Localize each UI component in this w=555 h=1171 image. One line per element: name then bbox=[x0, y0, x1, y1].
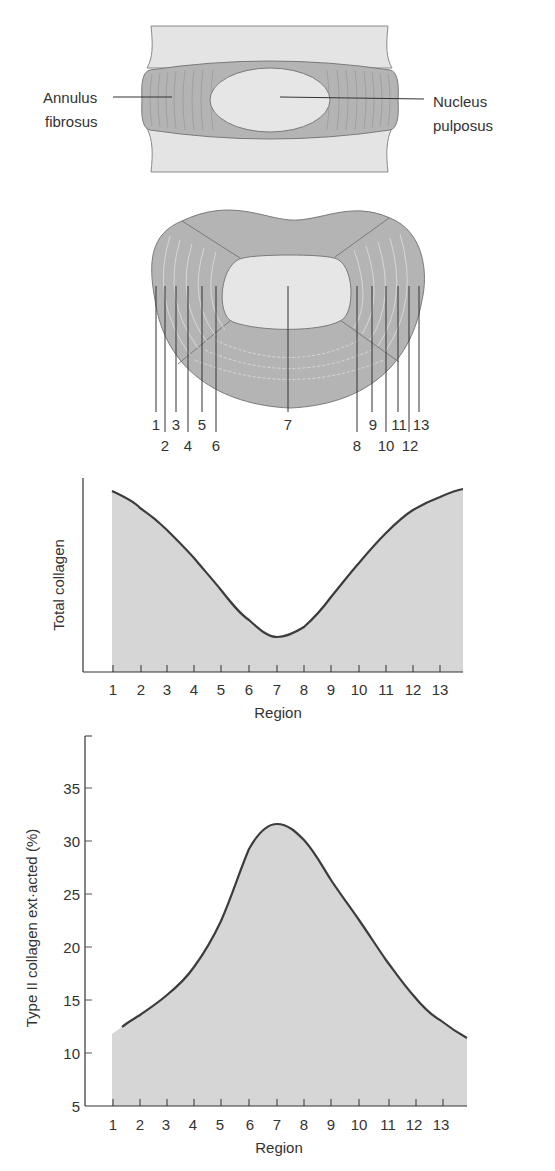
region-label-10: 10 bbox=[378, 437, 395, 454]
chart2-xtick-6: 6 bbox=[246, 1116, 254, 1133]
chart2-ytick-25: 25 bbox=[63, 886, 80, 903]
chart1-x-tick-labels: 1 2 3 4 5 6 7 8 9 10 11 12 13 bbox=[109, 681, 449, 698]
chart2-xtick-8: 8 bbox=[300, 1116, 308, 1133]
chart2-xtick-2: 2 bbox=[136, 1116, 144, 1133]
chart2-xtick-5: 5 bbox=[216, 1116, 224, 1133]
chart2-y-ticks bbox=[85, 788, 92, 1053]
region-label-6: 6 bbox=[212, 437, 220, 454]
annulus-label-line1: Annulus bbox=[43, 89, 97, 106]
chart1-xtick-10: 10 bbox=[351, 681, 368, 698]
nucleus-pulposus-top bbox=[222, 255, 351, 329]
chart1-xtick-8: 8 bbox=[300, 681, 308, 698]
chart1-xtick-6: 6 bbox=[245, 681, 253, 698]
total-collagen-area bbox=[112, 489, 463, 672]
nucleus-pulposus-side bbox=[210, 68, 330, 132]
chart2-xtick-9: 9 bbox=[327, 1116, 335, 1133]
chart1-xtick-13: 13 bbox=[432, 681, 449, 698]
region-label-13: 13 bbox=[413, 416, 430, 433]
region-label-2: 2 bbox=[161, 437, 169, 454]
chart2-ytick-35: 35 bbox=[63, 780, 80, 797]
chart2-xtick-12: 12 bbox=[406, 1116, 423, 1133]
region-label-12: 12 bbox=[402, 437, 419, 454]
chart2-x-axis-label: Region bbox=[255, 1139, 303, 1156]
chart2-x-tick-labels: 1 2 3 4 5 6 7 8 9 10 11 12 13 bbox=[109, 1116, 450, 1133]
chart1-xtick-1: 1 bbox=[109, 681, 117, 698]
figure-canvas: Annulus fibrosus Nucleus pulposus bbox=[0, 0, 555, 1171]
chart1-xtick-3: 3 bbox=[163, 681, 171, 698]
chart2-xtick-11: 11 bbox=[380, 1116, 396, 1133]
region-label-8: 8 bbox=[353, 437, 361, 454]
chart2-xtick-1: 1 bbox=[109, 1116, 117, 1133]
type-ii-collagen-area bbox=[112, 824, 467, 1106]
chart1-xtick-12: 12 bbox=[405, 681, 422, 698]
region-label-5: 5 bbox=[198, 416, 206, 433]
chart2-ytick-10: 10 bbox=[63, 1045, 80, 1062]
region-label-7: 7 bbox=[284, 416, 292, 433]
nucleus-label-line1: Nucleus bbox=[433, 93, 487, 110]
disc-side-view: Annulus fibrosus Nucleus pulposus bbox=[43, 26, 493, 172]
region-label-3: 3 bbox=[172, 416, 180, 433]
chart2-ytick-5: 5 bbox=[72, 1098, 80, 1115]
chart2-xtick-7: 7 bbox=[273, 1116, 281, 1133]
nucleus-label-line2: pulposus bbox=[433, 117, 493, 134]
annulus-label-line2: fibrosus bbox=[45, 113, 98, 130]
chart1-xtick-9: 9 bbox=[327, 681, 335, 698]
chart-type-ii-collagen: 35 30 25 20 15 10 5 1 2 3 4 5 6 7 8 9 bbox=[23, 736, 467, 1156]
chart2-xtick-13: 13 bbox=[433, 1116, 450, 1133]
disc-top-view: 1 2 3 4 5 6 7 8 9 10 11 12 13 bbox=[152, 210, 430, 454]
chart1-y-axis-label: Total collagen bbox=[50, 539, 67, 631]
region-label-4: 4 bbox=[184, 437, 192, 454]
region-label-9: 9 bbox=[369, 416, 377, 433]
chart1-xtick-4: 4 bbox=[190, 681, 198, 698]
region-label-11: 11 bbox=[391, 416, 407, 433]
chart-total-collagen: 1 2 3 4 5 6 7 8 9 10 11 12 13 Region Tot… bbox=[50, 478, 463, 721]
chart2-ytick-20: 20 bbox=[63, 939, 80, 956]
region-number-labels: 1 2 3 4 5 6 7 8 9 10 11 12 13 bbox=[152, 416, 430, 454]
chart2-xtick-10: 10 bbox=[351, 1116, 368, 1133]
chart1-xtick-11: 11 bbox=[378, 681, 394, 698]
chart2-xtick-4: 4 bbox=[189, 1116, 197, 1133]
chart2-ytick-30: 30 bbox=[63, 833, 80, 850]
chart1-x-axis-label: Region bbox=[254, 704, 302, 721]
chart2-y-tick-labels: 35 30 25 20 15 10 5 bbox=[63, 780, 80, 1115]
chart2-ytick-15: 15 bbox=[63, 992, 80, 1009]
chart1-xtick-2: 2 bbox=[137, 681, 145, 698]
region-label-1: 1 bbox=[152, 416, 160, 433]
chart2-y-axis-label: Type II collagen ext·acted (%) bbox=[23, 829, 40, 1027]
chart1-xtick-7: 7 bbox=[273, 681, 281, 698]
chart1-xtick-5: 5 bbox=[217, 681, 225, 698]
chart2-xtick-3: 3 bbox=[162, 1116, 170, 1133]
